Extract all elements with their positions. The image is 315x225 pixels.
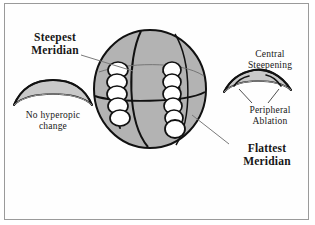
figure-frame: Steepest Meridian Flattest Meridian No h… [0, 0, 315, 225]
label-flattest-meridian-line2: Meridian [222, 155, 312, 168]
eye-globe-icon [94, 30, 206, 148]
label-central-steepening-line1: Central [232, 49, 308, 60]
left-profile-curve-icon [14, 80, 92, 105]
label-peripheral-ablation: Peripheral Ablation [228, 105, 312, 126]
label-peripheral-ablation-line1: Peripheral [228, 105, 312, 116]
label-no-hyperopic-change-line1: No hyperopic [8, 110, 98, 121]
leader-line-flattest [192, 115, 229, 144]
label-peripheral-ablation-line2: Ablation [228, 116, 312, 127]
label-central-steepening: Central Steepening [232, 49, 308, 70]
label-flattest-meridian: Flattest Meridian [222, 142, 312, 168]
label-steepest-meridian-line1: Steepest [12, 31, 98, 44]
ablation-column-left-icon [107, 62, 130, 128]
right-profile-curve-icon [224, 70, 291, 103]
label-no-hyperopic-change-line2: change [8, 121, 98, 132]
label-flattest-meridian-line1: Flattest [222, 142, 312, 155]
label-central-steepening-line2: Steepening [232, 60, 308, 71]
label-steepest-meridian-line2: Meridian [12, 44, 98, 57]
label-steepest-meridian: Steepest Meridian [12, 31, 98, 57]
label-no-hyperopic-change: No hyperopic change [8, 110, 98, 131]
